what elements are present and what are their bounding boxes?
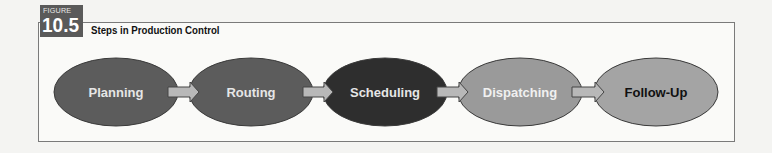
step-label: Follow-Up [625,85,688,100]
step-routing: Routing [189,58,313,126]
step-label: Scheduling [350,85,420,100]
figure-badge: FIGURE 10.5 [40,5,83,37]
step-scheduling: Scheduling [323,58,447,126]
figure-number: 10.5 [42,14,79,36]
production-control-flow: PlanningRoutingSchedulingDispatchingFoll… [0,0,772,153]
step-follow-up: Follow-Up [594,58,718,126]
step-dispatching: Dispatching [458,58,582,126]
step-label: Planning [89,85,144,100]
step-label: Routing [226,85,275,100]
step-label: Dispatching [483,85,557,100]
step-planning: Planning [54,58,178,126]
